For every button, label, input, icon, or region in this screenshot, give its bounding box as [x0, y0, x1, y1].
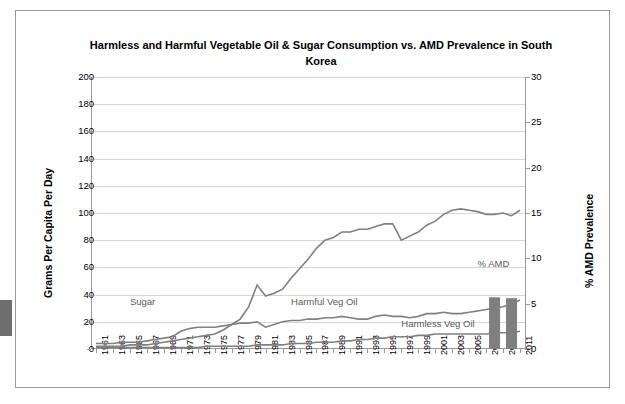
amd-bar — [506, 298, 517, 349]
chart-title: Harmless and Harmful Vegetable Oil & Sug… — [86, 37, 556, 69]
annotation-harmful-veg-oil: Harmful Veg Oil — [291, 296, 358, 307]
x-tick-mark — [367, 349, 368, 353]
x-tick-mark — [130, 349, 131, 353]
y-tick-mark-right — [526, 258, 530, 259]
annotation-sugar: Sugar — [130, 296, 155, 307]
y-tick-label-right: 20 — [531, 162, 561, 173]
x-tick-mark — [333, 349, 334, 353]
x-tick-mark — [181, 349, 182, 353]
annotation-harmless-veg-oil: Harmless Veg Oil — [401, 318, 474, 329]
x-tick-mark — [418, 349, 419, 353]
left-edge-tab — [0, 300, 12, 336]
y-axis-right-label: % AMD Prevalence — [583, 194, 595, 288]
x-tick-label: 2011 — [524, 336, 534, 355]
x-tick-mark — [113, 349, 114, 353]
y-tick-label-right: 25 — [531, 116, 561, 127]
x-tick-mark — [215, 349, 216, 353]
x-tick-mark — [249, 349, 250, 353]
x-tick-mark — [350, 349, 351, 353]
x-tick-mark — [147, 349, 148, 353]
x-tick-mark — [469, 349, 470, 353]
y-tick-label-right: 10 — [531, 252, 561, 263]
y-tick-mark-right — [526, 304, 530, 305]
x-tick-mark — [520, 349, 521, 353]
y-tick-mark-right — [526, 213, 530, 214]
y-tick-label-right: 5 — [531, 298, 561, 309]
y-tick-mark-right — [526, 77, 530, 78]
x-tick-mark — [316, 349, 317, 353]
x-tick-mark — [232, 349, 233, 353]
x-tick-mark — [401, 349, 402, 353]
annotation--amd: % AMD — [478, 258, 510, 269]
x-tick-mark — [300, 349, 301, 353]
x-tick-mark — [266, 349, 267, 353]
series-layer — [91, 77, 525, 349]
x-tick-mark — [435, 349, 436, 353]
x-tick-mark — [384, 349, 385, 353]
x-tick-mark — [486, 349, 487, 353]
x-tick-mark — [96, 349, 97, 353]
y-tick-label-right: 15 — [531, 207, 561, 218]
y-tick-label-right: 0 — [531, 343, 561, 354]
y-tick-mark-right — [526, 122, 530, 123]
amd-bar — [489, 297, 500, 349]
x-tick-mark — [452, 349, 453, 353]
x-tick-mark — [198, 349, 199, 353]
x-tick-mark — [164, 349, 165, 353]
y-axis-left-label: Grams Per Capita Per Day — [42, 168, 54, 298]
y-tick-mark-right — [526, 168, 530, 169]
x-tick-mark — [503, 349, 504, 353]
x-tick-mark — [283, 349, 284, 353]
y-tick-label-right: 30 — [531, 71, 561, 82]
y-tick-mark-left — [87, 349, 91, 350]
